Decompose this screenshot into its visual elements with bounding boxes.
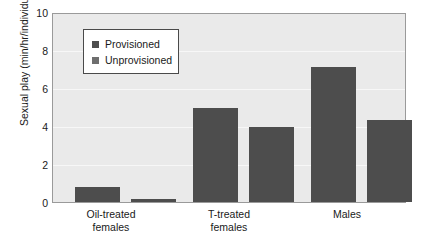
bar-t-treated-provisioned <box>193 108 238 202</box>
legend-label-provisioned: Provisioned <box>105 38 160 50</box>
legend-label-unprovisioned: Unprovisioned <box>105 54 172 66</box>
bar-males-unprovisioned <box>367 120 412 202</box>
bar-t-treated-unprovisioned <box>249 127 294 202</box>
x-category-t-treated-line1: T-treated <box>170 208 288 221</box>
legend-item-provisioned: Provisioned <box>92 36 171 52</box>
x-category-t-treated-line2: females <box>170 221 288 234</box>
bar-oil-treated-unprovisioned <box>131 199 176 202</box>
bar-chart-figure: Sexual play (min/hr/individual) 0 2 4 6 … <box>0 0 433 251</box>
bar-males-provisioned <box>311 67 356 202</box>
x-category-males: Males <box>288 208 406 221</box>
legend-swatch-provisioned <box>92 41 99 48</box>
x-category-oil-treated-line1: Oil-treated <box>52 208 170 221</box>
y-tick-4: 4 <box>6 121 48 133</box>
y-tick-0: 0 <box>6 197 48 209</box>
legend-swatch-unprovisioned <box>92 57 99 64</box>
x-category-males-line1: Males <box>288 208 406 221</box>
legend-item-unprovisioned: Unprovisioned <box>92 52 171 68</box>
bar-oil-treated-provisioned <box>75 187 120 202</box>
y-tick-10: 10 <box>6 7 48 19</box>
y-tick-8: 8 <box>6 45 48 57</box>
x-category-oil-treated-females: Oil-treated females <box>52 208 170 234</box>
y-tick-2: 2 <box>6 159 48 171</box>
legend: Provisioned Unprovisioned <box>83 29 179 74</box>
x-category-oil-treated-line2: females <box>52 221 170 234</box>
x-category-t-treated-females: T-treated females <box>170 208 288 234</box>
y-tick-6: 6 <box>6 83 48 95</box>
y-axis-tick-labels: 0 2 4 6 8 10 <box>0 0 48 251</box>
